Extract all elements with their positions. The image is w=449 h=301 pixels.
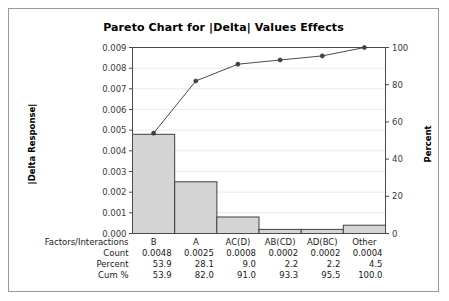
chart-frame: Pareto Chart for |Delta| Values Effects … — [8, 8, 439, 292]
chart-title: Pareto Chart for |Delta| Values Effects — [9, 21, 438, 34]
y-axis-label-left-text: |Delta Response| — [27, 104, 37, 185]
y-axis-label-right-text: Percent — [423, 125, 433, 162]
y-axis-label-left: |Delta Response| — [23, 69, 41, 219]
y-axis-label-right: Percent — [419, 99, 437, 189]
